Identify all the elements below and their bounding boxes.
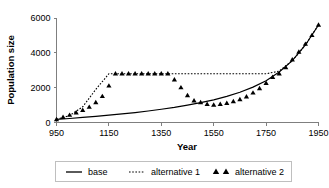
x-tick-label: 1150	[99, 128, 118, 138]
data-point-marker	[185, 93, 190, 97]
x-tick-label: 1350	[151, 128, 171, 138]
y-tick-label: 2000	[30, 83, 50, 93]
x-axis-title-label: Year	[177, 141, 197, 152]
population-chart: Population size 0200040006000 9501150135…	[0, 0, 329, 188]
chart-legend: base alternative 1 alternative 2	[56, 162, 292, 182]
data-point-marker	[224, 101, 229, 105]
y-axis-title-label: Population size	[5, 35, 16, 105]
legend-label-alternative-1: alternative 1	[151, 167, 200, 177]
data-point-marker	[172, 77, 177, 81]
data-point-marker	[211, 102, 216, 106]
data-point-marker	[178, 85, 183, 89]
y-tick-label: 4000	[30, 48, 50, 58]
data-point-marker	[87, 104, 92, 108]
data-point-marker	[237, 97, 242, 101]
series-alternative-2-markers	[54, 22, 321, 121]
x-tick-label: 1550	[204, 128, 224, 138]
data-point-marker	[93, 100, 98, 104]
x-axis-ticks: 95011501350155017501950	[49, 123, 329, 138]
y-axis-ticks: 0200040006000	[30, 13, 56, 128]
data-point-marker	[244, 94, 249, 98]
legend-label-alternative-2: alternative 2	[235, 167, 284, 177]
chart-figure: Population size 0200040006000 9501150135…	[0, 0, 329, 188]
data-point-marker	[257, 86, 262, 90]
data-point-marker	[106, 83, 111, 87]
x-tick-label: 1750	[256, 128, 276, 138]
data-point-marker	[100, 94, 105, 98]
data-point-marker	[113, 71, 118, 75]
y-tick-label: 0	[45, 118, 50, 128]
legend-label-base: base	[88, 167, 108, 177]
data-point-marker	[309, 33, 314, 37]
y-axis-title: Population size	[5, 35, 16, 105]
data-point-marker	[250, 90, 255, 94]
data-point-marker	[67, 112, 72, 116]
data-point-marker	[191, 98, 196, 102]
x-axis-title: Year	[177, 141, 197, 152]
data-point-marker	[60, 115, 65, 119]
x-tick-label: 1950	[308, 128, 328, 138]
data-point-marker	[231, 99, 236, 103]
x-tick-label: 950	[49, 128, 64, 138]
data-point-marker	[218, 101, 223, 105]
y-tick-label: 6000	[30, 13, 50, 23]
data-point-marker	[316, 22, 321, 26]
